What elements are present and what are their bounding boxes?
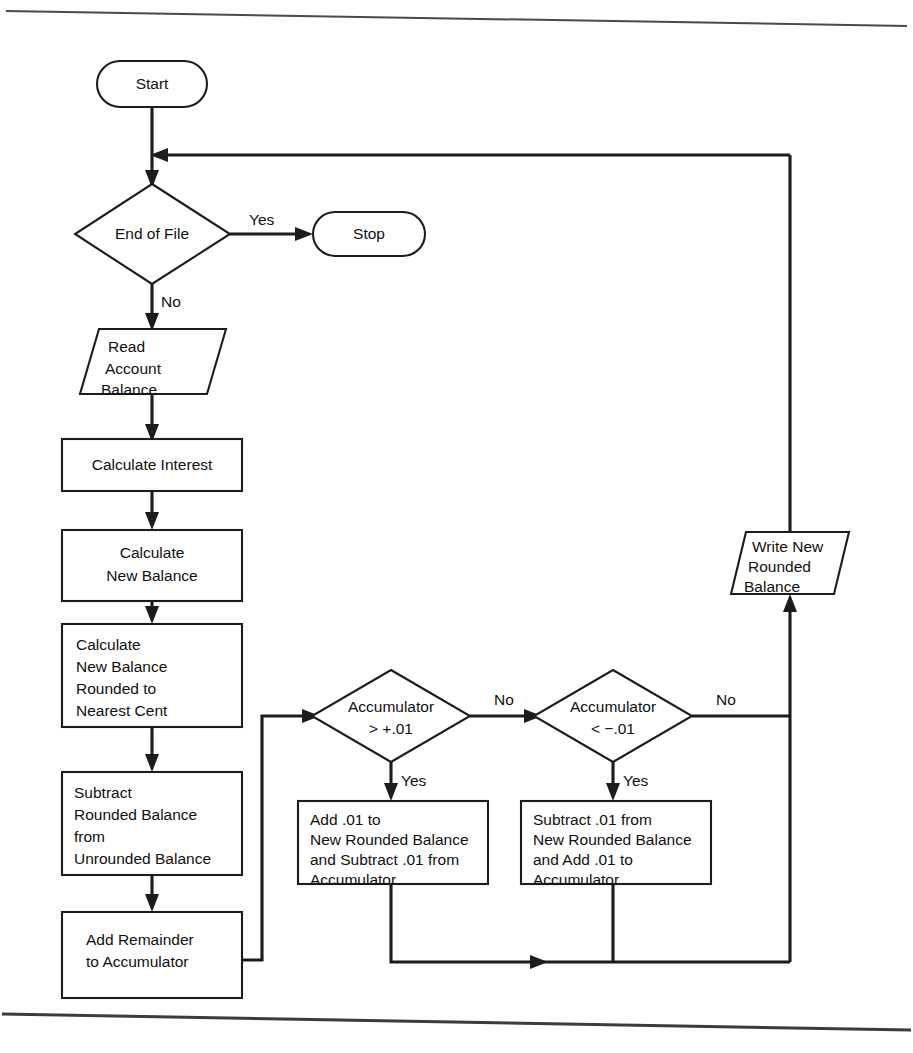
node-calculate-rounded[interactable]: Calculate New Balance Rounded to Nearest… — [62, 624, 242, 727]
subtract-rounded-line-3: from — [74, 828, 105, 845]
accumulator-gt-line-2: > +.01 — [369, 720, 413, 737]
node-calculate-new-balance[interactable]: Calculate New Balance — [62, 530, 242, 601]
node-end-of-file[interactable]: End of File — [75, 184, 230, 284]
page-rule-bottom — [2, 1014, 911, 1030]
flowchart-canvas: Stop --> Read Account Balance --> Accumu… — [0, 0, 913, 1053]
arrowhead-accgt-yes — [384, 783, 398, 801]
arrowhead-riser-to-write — [783, 594, 797, 612]
arrowhead-subtract-to-addremainder — [145, 894, 159, 912]
stop-label: Stop — [353, 225, 385, 242]
add-point-01-line-1: Add .01 to — [310, 811, 381, 828]
start-label: Start — [136, 75, 169, 92]
accumulator-gt-decision-shape — [312, 670, 470, 762]
add-point-01-line-4: Accumulator — [310, 871, 396, 888]
edge-label-eof-no: No — [161, 293, 181, 310]
edge-label-eof-yes: Yes — [249, 211, 275, 228]
node-accumulator-lt[interactable]: Accumulator < −.01 — [534, 670, 692, 762]
calculate-new-balance-line-1: Calculate — [120, 544, 185, 561]
end-of-file-label: End of File — [115, 225, 189, 242]
calculate-new-balance-line-2: New Balance — [106, 567, 197, 584]
accumulator-lt-line-2: < −.01 — [591, 720, 635, 737]
edge-label-accgt-yes: Yes — [401, 772, 427, 789]
add-remainder-line-1: Add Remainder — [86, 931, 194, 948]
node-write-new-rounded[interactable]: Write New Rounded Balance — [731, 532, 849, 595]
add-point-01-line-3: and Subtract .01 from — [310, 851, 459, 868]
arrowhead-eof-yes — [295, 227, 313, 241]
accumulator-lt-decision-shape — [534, 670, 692, 762]
write-new-rounded-line-3: Balance — [744, 578, 800, 595]
node-stop[interactable]: Stop — [313, 212, 425, 256]
accumulator-gt-line-1: Accumulator — [348, 698, 434, 715]
calculate-new-balance-shape — [62, 530, 242, 601]
flowchart-page: Stop --> Read Account Balance --> Accumu… — [0, 0, 913, 1053]
read-account-balance-line-3: Balance — [101, 381, 157, 398]
subtract-rounded-line-1: Subtract — [74, 784, 132, 801]
node-start[interactable]: Start — [97, 61, 207, 107]
calculate-interest-line-1: Calculate Interest — [92, 456, 213, 473]
calculate-rounded-line-4: Nearest Cent — [76, 702, 168, 719]
node-add-point-01[interactable]: Add .01 to New Rounded Balance and Subtr… — [298, 801, 488, 888]
calculate-rounded-line-2: New Balance — [76, 658, 167, 675]
edge-label-accgt-no: No — [494, 691, 514, 708]
add-remainder-line-2: to Accumulator — [86, 953, 189, 970]
subtract-rounded-line-2: Rounded Balance — [74, 806, 197, 823]
arrowhead-acclt-yes — [606, 783, 620, 801]
node-read-account-balance[interactable]: Read Account Balance — [80, 329, 226, 398]
connector-add01-to-bus — [391, 884, 540, 962]
add-point-01-line-2: New Rounded Balance — [310, 831, 469, 848]
write-new-rounded-line-1: Write New — [752, 538, 824, 555]
read-account-balance-line-2: Account — [105, 360, 162, 377]
node-add-remainder[interactable]: Add Remainder to Accumulator — [62, 912, 242, 998]
write-new-rounded-line-2: Rounded — [748, 558, 811, 575]
subtract-point-01-line-1: Subtract .01 from — [533, 811, 652, 828]
node-subtract-rounded[interactable]: Subtract Rounded Balance from Unrounded … — [62, 772, 242, 875]
read-account-balance-line-1: Read — [108, 338, 145, 355]
subtract-point-01-line-4: Accumulator — [533, 871, 619, 888]
edge-label-acclt-yes: Yes — [623, 772, 649, 789]
arrowhead-interest-to-newbalance — [145, 512, 159, 530]
arrowhead-rounded-to-subtract — [145, 754, 159, 772]
subtract-point-01-line-2: New Rounded Balance — [533, 831, 692, 848]
subtract-rounded-line-4: Unrounded Balance — [74, 850, 211, 867]
arrowhead-newbalance-to-rounded — [145, 606, 159, 624]
subtract-point-01-line-3: and Add .01 to — [533, 851, 633, 868]
node-calculate-interest[interactable]: Calculate Interest — [62, 439, 242, 491]
calculate-rounded-line-1: Calculate — [76, 636, 141, 653]
page-rule-top — [6, 11, 907, 26]
edge-label-acclt-no: No — [716, 691, 736, 708]
node-subtract-point-01[interactable]: Subtract .01 from New Rounded Balance an… — [521, 801, 711, 888]
node-accumulator-gt[interactable]: Accumulator > +.01 — [312, 670, 470, 762]
accumulator-lt-line-1: Accumulator — [570, 698, 656, 715]
calculate-rounded-line-3: Rounded to — [76, 680, 156, 697]
